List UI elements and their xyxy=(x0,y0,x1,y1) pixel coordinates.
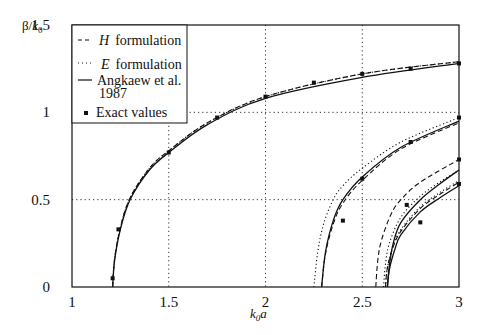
legend-square-swatch xyxy=(84,111,88,115)
svg-text:1.5: 1.5 xyxy=(159,294,178,310)
legend-item-angkaew-year: 1987 xyxy=(99,86,127,101)
legend-item-exact: Exact values xyxy=(96,105,167,120)
svg-text:1: 1 xyxy=(68,294,76,310)
x-axis-label: k0a xyxy=(250,306,267,323)
y-tick-labels: 00.511.5 xyxy=(31,17,50,295)
svg-text:2.5: 2.5 xyxy=(353,294,372,310)
dispersion-chart: 11.522.53 00.511.5 β/k0 k0a Hformulation… xyxy=(0,0,482,335)
legend: Hformulation Eformulation Angkaew et al.… xyxy=(72,25,187,123)
svg-text:0: 0 xyxy=(43,279,51,295)
svg-text:1: 1 xyxy=(43,104,51,120)
svg-text:3: 3 xyxy=(455,294,463,310)
svg-text:0.5: 0.5 xyxy=(31,192,50,208)
